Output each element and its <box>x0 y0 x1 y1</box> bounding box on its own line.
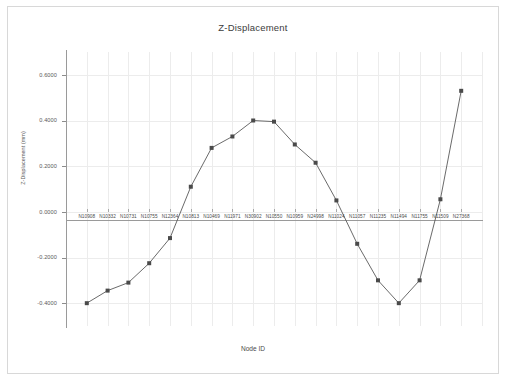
y-tick-label: 0.0000 <box>25 209 57 215</box>
vertical-gridline <box>461 52 462 326</box>
x-axis-title: Node ID <box>0 345 506 352</box>
horizontal-gridline <box>66 212 482 213</box>
x-tick-mark <box>399 209 400 212</box>
vertical-gridline <box>128 52 129 326</box>
vertical-gridline <box>482 52 483 326</box>
y-tick-label: 0.6000 <box>25 72 57 78</box>
vertical-gridline <box>357 52 358 326</box>
vertical-gridline <box>336 52 337 326</box>
x-tick-label: N27368 <box>448 214 474 219</box>
x-tick-mark <box>87 209 88 212</box>
x-tick-mark <box>274 209 275 212</box>
x-tick-mark <box>461 209 462 212</box>
y-tick-label: -0.2000 <box>25 254 57 260</box>
y-tick-mark <box>62 166 66 167</box>
horizontal-gridline <box>66 303 482 304</box>
vertical-gridline <box>170 52 171 326</box>
x-tick-mark <box>316 209 317 212</box>
x-tick-mark <box>108 209 109 212</box>
x-tick-mark <box>232 209 233 212</box>
vertical-gridline <box>212 52 213 326</box>
y-tick-mark <box>62 75 66 76</box>
x-tick-mark <box>295 209 296 212</box>
vertical-gridline <box>399 52 400 326</box>
plot-wrapper: Z-Displacement (mm) 0.60000.40000.20000.… <box>0 0 506 381</box>
y-tick-label: 0.4000 <box>25 117 57 123</box>
vertical-gridline <box>149 52 150 326</box>
vertical-gridline <box>295 52 296 326</box>
vertical-gridline <box>108 52 109 326</box>
x-tick-mark <box>253 209 254 212</box>
y-tick-mark <box>62 258 66 259</box>
horizontal-gridline <box>66 75 482 76</box>
x-tick-mark <box>420 209 421 212</box>
y-tick-mark <box>62 121 66 122</box>
plot-area <box>66 52 482 326</box>
horizontal-gridline <box>66 166 482 167</box>
horizontal-gridline <box>66 121 482 122</box>
vertical-gridline <box>420 52 421 326</box>
x-tick-mark <box>170 209 171 212</box>
x-tick-mark <box>191 209 192 212</box>
x-tick-mark <box>128 209 129 212</box>
chart-screenshot: Z-Displacement Z-Displacement (mm) 0.600… <box>0 0 506 381</box>
vertical-gridline <box>440 52 441 326</box>
x-axis-line <box>66 220 483 221</box>
y-axis-line <box>66 50 67 328</box>
y-tick-label: 0.2000 <box>25 163 57 169</box>
vertical-gridline <box>191 52 192 326</box>
x-tick-mark <box>357 209 358 212</box>
x-tick-mark <box>212 209 213 212</box>
vertical-gridline <box>274 52 275 326</box>
vertical-gridline <box>378 52 379 326</box>
vertical-gridline <box>253 52 254 326</box>
x-tick-mark <box>149 209 150 212</box>
y-tick-label: -0.4000 <box>25 300 57 306</box>
horizontal-gridline <box>66 258 482 259</box>
vertical-gridline <box>316 52 317 326</box>
y-tick-mark <box>62 303 66 304</box>
x-tick-mark <box>440 209 441 212</box>
vertical-gridline <box>87 52 88 326</box>
y-tick-mark <box>62 212 66 213</box>
x-tick-mark <box>336 209 337 212</box>
x-tick-mark <box>378 209 379 212</box>
vertical-gridline <box>232 52 233 326</box>
